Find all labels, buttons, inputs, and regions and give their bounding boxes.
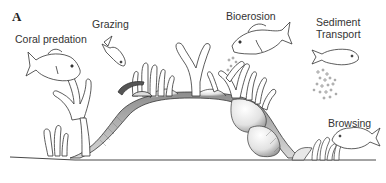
fish-sediment-transport bbox=[312, 49, 359, 65]
label-sediment: Sediment bbox=[316, 16, 360, 28]
fish-coral-predation bbox=[26, 49, 80, 81]
label-browsing: Browsing bbox=[328, 117, 371, 129]
fish-browsing bbox=[332, 127, 380, 148]
sediment-particles bbox=[313, 69, 337, 99]
reef-illustration: A Coral predation Grazing Bioerosion Sed… bbox=[0, 0, 386, 183]
label-grazing: Grazing bbox=[92, 18, 129, 30]
branching-coral-left bbox=[44, 72, 91, 156]
panel-label: A bbox=[12, 9, 21, 25]
label-transport: Transport bbox=[316, 28, 361, 40]
fish-bioerosion bbox=[232, 22, 292, 54]
label-coral-predation: Coral predation bbox=[15, 33, 87, 45]
label-bioerosion: Bioerosion bbox=[226, 10, 276, 22]
fish-grazing bbox=[102, 36, 125, 66]
